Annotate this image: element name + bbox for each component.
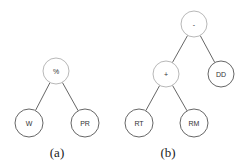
node-label: RM bbox=[189, 120, 200, 127]
node-label: + bbox=[164, 71, 168, 78]
tree-node-b-root: - bbox=[181, 11, 207, 37]
tree-node-b-rm: RM bbox=[180, 109, 208, 137]
tree-edge-b-plus-rm bbox=[172, 85, 187, 111]
node-label: RT bbox=[134, 120, 144, 127]
tree-edge-b-root-dd bbox=[200, 35, 215, 62]
tree-node-a-left: W bbox=[15, 109, 43, 137]
node-label: DD bbox=[216, 71, 226, 78]
caption-a: (a) bbox=[50, 145, 64, 160]
caption-b: (b) bbox=[160, 145, 175, 160]
tree-node-a-root: % bbox=[43, 58, 69, 84]
tree-edge-b-root-plus bbox=[172, 35, 187, 62]
tree-node-a-right: PR bbox=[71, 109, 99, 137]
tree-edge-b-plus-rt bbox=[146, 85, 160, 110]
tree-edge-a-root-right bbox=[62, 82, 78, 110]
captions-layer: (a)(b) bbox=[50, 145, 176, 160]
tree-node-b-plus: + bbox=[153, 61, 179, 87]
node-label: W bbox=[26, 120, 33, 127]
tree-edge-a-root-left bbox=[35, 83, 50, 111]
node-label: PR bbox=[80, 120, 90, 127]
tree-node-b-rt: RT bbox=[125, 109, 153, 137]
expression-tree-diagram: %WPR-+DDRTRM (a)(b) bbox=[0, 0, 243, 168]
tree-node-b-dd: DD bbox=[208, 61, 234, 87]
node-label: % bbox=[53, 68, 59, 75]
nodes-layer: %WPR-+DDRTRM bbox=[15, 11, 234, 137]
